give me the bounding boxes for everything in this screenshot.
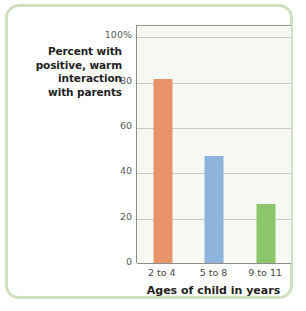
y-tick-label-80: 80 xyxy=(92,76,132,86)
x-tick-label-2: 5 to 8 xyxy=(188,267,240,278)
y-tick-label-100: 100% xyxy=(92,30,132,40)
bar-2[interactable] xyxy=(205,156,224,263)
figure-frame: Percent with positive, warm interaction … xyxy=(5,4,293,299)
x-axis-tick-labels: 2 to 45 to 89 to 11 xyxy=(136,267,291,281)
bar-slot-1 xyxy=(137,26,189,263)
y-tick-label-0: 0 xyxy=(92,257,132,267)
bar-3[interactable] xyxy=(257,204,276,263)
y-tick-label-20: 20 xyxy=(92,212,132,222)
y-tick-label-40: 40 xyxy=(92,166,132,176)
y-tick-label-60: 60 xyxy=(92,121,132,131)
y-axis-tick-labels: 020406080100% xyxy=(88,25,132,263)
bar-slot-3 xyxy=(240,26,292,263)
plot-area xyxy=(136,25,291,263)
x-axis-title: Ages of child in years xyxy=(126,284,301,297)
x-tick-label-1: 2 to 4 xyxy=(136,267,188,278)
x-tick-label-3: 9 to 11 xyxy=(239,267,291,278)
bar-slot-2 xyxy=(189,26,241,263)
bar-1[interactable] xyxy=(153,79,172,263)
